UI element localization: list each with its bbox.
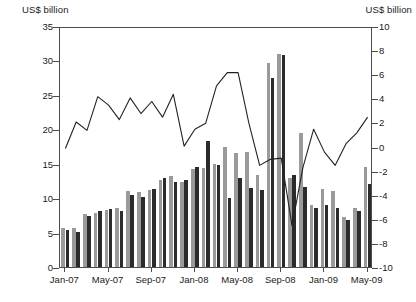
x-axis-tick-label: Sep-08 bbox=[265, 274, 296, 285]
x-axis-tick-label: May-09 bbox=[351, 274, 383, 285]
right-axis-tick-label: -6 bbox=[379, 214, 409, 225]
left-axis-tick-label: 5 bbox=[13, 228, 53, 239]
right-axis-tick-label: -4 bbox=[379, 190, 409, 201]
left-axis-tick-label: 15 bbox=[13, 159, 53, 170]
plot-area bbox=[59, 27, 372, 268]
left-axis-tick-label: 20 bbox=[13, 124, 53, 135]
left-axis-unit-label: US$ billion bbox=[22, 4, 69, 15]
right-axis-tick-label: 0 bbox=[379, 142, 409, 153]
x-axis-tick-label: Jan-08 bbox=[179, 274, 208, 285]
x-axis-tick-label: Sep-07 bbox=[135, 274, 166, 285]
right-axis-tick-label: -8 bbox=[379, 238, 409, 249]
left-axis-tick-label: 10 bbox=[13, 193, 53, 204]
right-axis-tick-label: -10 bbox=[379, 262, 409, 273]
chart-container: US$ billion US$ billion Inflows Outflows… bbox=[0, 0, 416, 302]
right-axis-tick-label: 6 bbox=[379, 69, 409, 80]
right-axis-tick-label: -2 bbox=[379, 166, 409, 177]
right-axis-unit-label: US$ billion bbox=[365, 4, 412, 15]
left-axis-tick-label: 35 bbox=[13, 21, 53, 32]
right-axis-tick-label: 10 bbox=[379, 21, 409, 32]
left-axis-tick-label: 25 bbox=[13, 90, 53, 101]
x-axis-tick-label: May-07 bbox=[92, 274, 124, 285]
left-axis-tick-label: 0 bbox=[13, 262, 53, 273]
x-axis-tick-label: May-08 bbox=[221, 274, 253, 285]
right-axis-tick-label: 2 bbox=[379, 117, 409, 128]
right-axis-tick-label: 4 bbox=[379, 93, 409, 104]
right-axis-tick-label: 8 bbox=[379, 45, 409, 56]
x-axis-tick-label: Jan-07 bbox=[50, 274, 79, 285]
net-line-series bbox=[65, 73, 367, 226]
left-axis-tick-mark bbox=[53, 268, 59, 269]
x-axis-tick-label: Jan-09 bbox=[309, 274, 338, 285]
left-axis-tick-label: 30 bbox=[13, 55, 53, 66]
net-line-layer bbox=[60, 28, 373, 269]
